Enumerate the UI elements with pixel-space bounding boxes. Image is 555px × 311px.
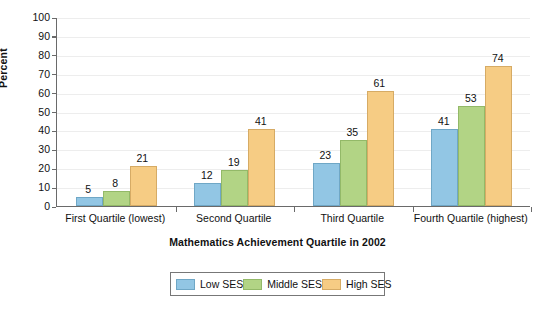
bar-value-label: 23 xyxy=(303,149,348,161)
bar-value-label: 35 xyxy=(330,126,375,138)
gridline xyxy=(57,37,530,38)
legend-item[interactable]: Middle SES xyxy=(243,278,322,290)
legend-swatch xyxy=(176,279,195,290)
bar-value-label: 41 xyxy=(421,115,466,127)
bar-value-label: 74 xyxy=(475,52,520,64)
y-axis-tick-label: 50 xyxy=(14,106,50,118)
legend-swatch xyxy=(322,279,341,290)
legend-label: Middle SES xyxy=(267,278,322,290)
bar xyxy=(76,197,103,206)
y-axis-tick-label: 40 xyxy=(14,124,50,136)
bar-value-label: 41 xyxy=(238,115,283,127)
y-axis-title: Percent xyxy=(0,48,9,88)
y-axis-tick-label: 70 xyxy=(14,68,50,80)
gridline xyxy=(57,18,530,19)
y-axis-tick-label: 10 xyxy=(14,181,50,193)
y-axis-tick-label: 80 xyxy=(14,49,50,61)
bar-value-label: 21 xyxy=(120,152,165,164)
bar-value-label: 53 xyxy=(448,92,493,104)
legend-item[interactable]: High SES xyxy=(322,278,392,290)
legend-swatch xyxy=(243,279,262,290)
bar-value-label: 12 xyxy=(184,169,229,181)
y-axis-tick-label: 20 xyxy=(14,162,50,174)
legend-label: High SES xyxy=(346,278,392,290)
gridline xyxy=(57,56,530,57)
y-axis-tick-label: 100 xyxy=(14,11,50,23)
bar-value-label: 8 xyxy=(93,177,138,189)
bar xyxy=(367,91,394,206)
y-axis-tick-label: 30 xyxy=(14,143,50,155)
y-axis-tick-label: 0 xyxy=(14,200,50,212)
bar-chart: Percent 0102030405060708090100 582112194… xyxy=(0,0,555,311)
bar-value-label: 61 xyxy=(357,77,402,89)
gridline xyxy=(57,75,530,76)
legend: Low SESMiddle SESHigh SES xyxy=(170,272,385,296)
y-axis-tick-label: 90 xyxy=(14,30,50,42)
bar xyxy=(194,183,221,206)
legend-label: Low SES xyxy=(200,278,243,290)
bar xyxy=(485,66,512,206)
y-axis-tick-label: 60 xyxy=(14,87,50,99)
x-axis-title: Mathematics Achievement Quartile in 2002 xyxy=(0,236,555,248)
x-axis-category-label: Fourth Quartile (highest) xyxy=(392,212,551,224)
bar xyxy=(313,163,340,206)
bar xyxy=(431,129,458,206)
bar-value-label: 19 xyxy=(211,156,256,168)
legend-item[interactable]: Low SES xyxy=(176,278,243,290)
